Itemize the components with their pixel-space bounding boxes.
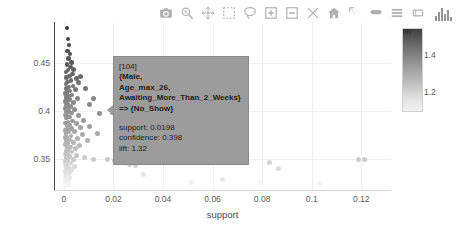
plotly-scatter-figure: 0.450.40.35 00.020.040.060.080.10.12 sup… <box>0 0 456 235</box>
tooltip-metrics: support: 0.0198confidence: 0.398lift: 1.… <box>119 123 248 154</box>
x-axis-line <box>54 190 391 191</box>
scatter-point[interactable] <box>317 181 322 186</box>
tooltip-rule-id: [104] <box>119 62 248 72</box>
tooltip-rule-line: Awaiting_More_Than_2_Weeks} <box>119 93 248 103</box>
scatter-point[interactable] <box>83 86 88 91</box>
x-gridline <box>361 22 362 190</box>
scatter-point[interactable] <box>66 37 70 41</box>
scatter-point[interactable] <box>71 140 75 144</box>
x-gridline <box>312 22 313 190</box>
scatter-point[interactable] <box>68 52 72 56</box>
y-axis-line <box>54 22 55 190</box>
scatter-point[interactable] <box>267 160 272 165</box>
x-gridline <box>262 22 263 190</box>
scatter-point[interactable] <box>220 177 225 182</box>
scatter-point[interactable] <box>91 157 96 162</box>
x-tick-label: 0.08 <box>254 194 271 204</box>
zoom-icon[interactable] <box>180 6 194 21</box>
lasso-select-icon[interactable] <box>243 6 257 21</box>
scatter-point[interactable] <box>73 87 78 92</box>
scatter-point[interactable] <box>67 183 71 187</box>
scatter-point[interactable] <box>65 26 69 30</box>
scatter-point[interactable] <box>78 74 83 79</box>
colorbar-gradient <box>402 28 423 112</box>
x-tick-label: 0.02 <box>105 194 122 204</box>
scatter-point[interactable] <box>78 125 83 130</box>
tooltip-rule-line: => {No_Show} <box>119 104 248 114</box>
scatter-point[interactable] <box>76 113 81 118</box>
scatter-point[interactable] <box>105 157 110 162</box>
scatter-point[interactable] <box>362 157 367 162</box>
tooltip-rule-line: {Male, <box>119 72 248 82</box>
zoom-in-icon[interactable] <box>264 6 278 21</box>
scatter-point[interactable] <box>189 180 194 185</box>
y-axis-ticks: 0.450.40.35 <box>0 0 50 235</box>
colorbar-tick-label: 1.2 <box>424 87 436 97</box>
hover-compare-icon[interactable] <box>390 6 404 21</box>
scatter-point[interactable] <box>87 124 92 129</box>
hover-closest-icon[interactable] <box>369 6 383 21</box>
colorbar-title: lift <box>403 28 411 35</box>
colorbar-tick-label: 1.4 <box>424 50 436 60</box>
toggle-spike-lines-icon[interactable] <box>348 6 362 21</box>
tooltip-metric-line: confidence: 0.398 <box>119 133 248 143</box>
scatter-point[interactable] <box>141 172 146 177</box>
scatter-point[interactable] <box>80 132 85 137</box>
scatter-point[interactable] <box>75 96 80 101</box>
scatter-point[interactable] <box>97 111 102 116</box>
x-tick-label: 0 <box>62 194 67 204</box>
hover-tooltip: [104] {Male,Age_max_26,Awaiting_More_Tha… <box>113 56 249 165</box>
y-tick-label: 0.45 <box>33 58 50 68</box>
x-axis-title: support <box>54 209 391 220</box>
y-tick-label: 0.35 <box>33 154 50 164</box>
scatter-point[interactable] <box>76 80 81 85</box>
scatter-point[interactable] <box>75 136 80 141</box>
scatter-point[interactable] <box>67 43 71 47</box>
plotly-modebar[interactable] <box>190 2 452 24</box>
x-tick-label: 0.04 <box>155 194 172 204</box>
tooltip-rule-line: Age_max_26, <box>119 83 248 93</box>
scatter-point[interactable] <box>95 131 100 136</box>
box-select-icon[interactable] <box>222 6 236 21</box>
x-tick-label: 0.12 <box>353 194 370 204</box>
tooltip-metric-line: lift: 1.32 <box>119 144 248 154</box>
plotly-logo-icon[interactable] <box>435 6 452 21</box>
tooltip-spacer <box>119 114 248 123</box>
scatter-point[interactable] <box>276 166 281 171</box>
download-plot-camera-icon[interactable] <box>159 6 173 21</box>
scatter-point[interactable] <box>72 129 77 134</box>
autoscale-icon[interactable] <box>306 6 320 21</box>
scatter-point[interactable] <box>91 96 96 101</box>
scatter-point[interactable] <box>87 102 92 107</box>
y-tick-label: 0.4 <box>38 106 50 116</box>
scatter-point[interactable] <box>81 118 86 123</box>
scatter-point[interactable] <box>85 138 90 143</box>
reset-axes-home-icon[interactable] <box>327 6 341 21</box>
x-tick-label: 0.1 <box>306 194 318 204</box>
tooltip-metric-line: support: 0.0198 <box>119 123 248 133</box>
zoom-out-icon[interactable] <box>285 6 299 21</box>
pan-icon[interactable] <box>201 6 215 21</box>
x-tick-label: 0.06 <box>204 194 221 204</box>
toggle-drag-icon[interactable] <box>411 6 425 21</box>
tooltip-rule-text: {Male,Age_max_26,Awaiting_More_Than_2_We… <box>119 72 248 114</box>
